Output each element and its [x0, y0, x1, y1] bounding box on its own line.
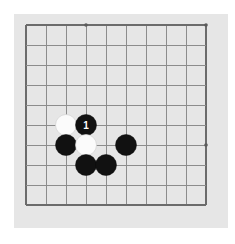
white-stone-disc: [76, 135, 97, 156]
white-stone: [56, 115, 77, 136]
star-point: [204, 143, 208, 147]
white-stone: [76, 135, 97, 156]
grid-lines-layer: [26, 25, 206, 205]
star-point: [84, 23, 88, 27]
white-stone-disc: [56, 115, 77, 136]
black-stone: [76, 155, 97, 176]
go-diagram-root: 1: [0, 0, 235, 244]
black-stone: [56, 135, 77, 156]
black-stone: 1: [76, 115, 97, 136]
black-stone: [96, 155, 117, 176]
move-number-label: 1: [83, 120, 89, 131]
black-stone-disc: [96, 155, 117, 176]
go-board-canvas: 1: [0, 0, 235, 244]
black-stone-disc: [56, 135, 77, 156]
black-stone: [116, 135, 137, 156]
black-stone-disc: [116, 135, 137, 156]
stones-layer: 1: [56, 115, 137, 176]
star-point: [204, 23, 208, 27]
black-stone-disc: [76, 155, 97, 176]
